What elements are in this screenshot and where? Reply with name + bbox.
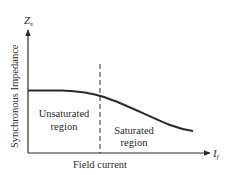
saturated-region-label-line2: region (121, 137, 149, 148)
y-axis-symbol: Zs (24, 14, 33, 28)
x-axis-symbol: If (212, 147, 220, 161)
unsaturated-region-label-line1: Unsaturated (39, 108, 90, 119)
saturated-region-label-line1: Saturated (114, 125, 154, 136)
x-axis-symbol-subscript: f (217, 153, 220, 161)
y-axis-symbol-subscript: s (30, 20, 33, 28)
unsaturated-region-label-line2: region (51, 121, 79, 132)
x-axis-label: Field current (73, 159, 127, 170)
y-axis-label: Synchronous Impedance (9, 44, 20, 148)
impedance-diagram: Zs Synchronous Impedance If Field curren… (0, 0, 233, 175)
